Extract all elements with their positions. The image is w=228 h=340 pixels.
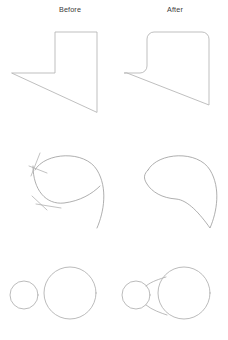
overhang-tail-3	[32, 196, 47, 210]
closed-joined-curve	[144, 156, 216, 228]
large-circle-before	[44, 267, 96, 319]
overhang-tail-2	[29, 166, 47, 173]
row-fillet-before	[12, 32, 97, 112]
row-blend-before	[10, 267, 96, 319]
rounded-corner-polygon	[125, 32, 210, 105]
figure-canvas	[0, 0, 228, 340]
row-trim-join-after	[144, 156, 216, 228]
blend-bridge-top	[146, 277, 166, 286]
row-blend	[10, 267, 210, 319]
before-after-figure: Before After	[0, 0, 228, 340]
sharp-corner-polygon	[12, 32, 97, 112]
row-fillet-after	[125, 32, 210, 105]
overhang-tail-4	[36, 204, 61, 208]
row-trim-join	[29, 153, 217, 228]
row-blend-after	[122, 267, 210, 319]
row-trim-join-before	[29, 153, 104, 228]
row-fillet	[12, 32, 209, 112]
small-circle-before	[10, 281, 38, 309]
large-circle-after	[158, 267, 210, 319]
overhang-tail-1	[31, 153, 40, 176]
